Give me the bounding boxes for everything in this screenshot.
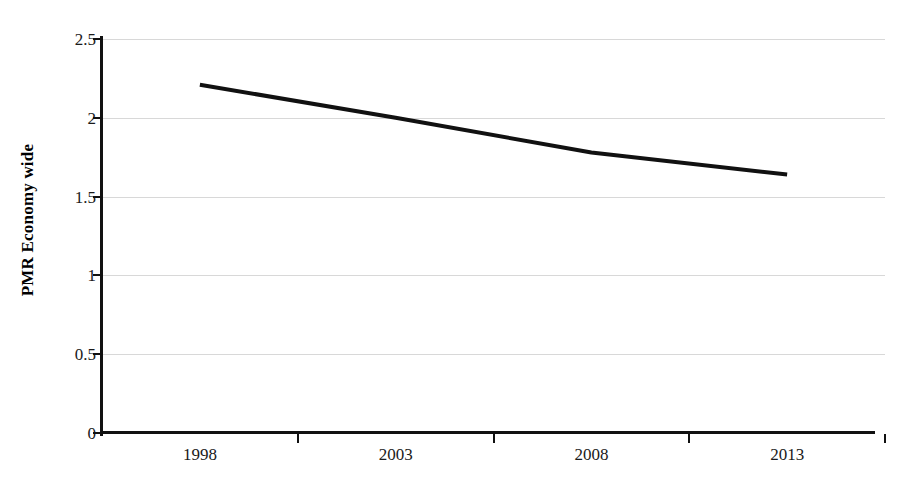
- y-axis-tick-mark: [93, 353, 101, 355]
- y-axis-tick-label: 0: [56, 425, 96, 442]
- y-axis-line: [100, 36, 103, 436]
- y-axis-tick-mark: [93, 432, 101, 434]
- x-axis-tick-label: 2008: [574, 445, 608, 465]
- x-axis-tick-mark: [688, 434, 690, 443]
- y-axis-tick-labels: 2.521.510.50: [52, 0, 96, 490]
- y-axis-tick-label: 0.5: [56, 346, 96, 363]
- gridline: [102, 275, 885, 276]
- x-axis-tick-label: 1998: [183, 445, 217, 465]
- plot-area: [102, 39, 885, 433]
- y-axis-title-text: PMR Economy wide: [18, 144, 38, 296]
- y-axis-tick-mark: [93, 274, 101, 276]
- y-axis-tick-label: 1.5: [56, 188, 96, 205]
- y-axis-tick-label: 2.5: [56, 31, 96, 48]
- y-axis-tick-mark: [93, 38, 101, 40]
- x-axis-line: [100, 431, 875, 434]
- gridline: [102, 39, 885, 40]
- x-axis-tick-mark: [884, 434, 886, 443]
- line-chart: PMR Economy wide 2.521.510.50 1998200320…: [0, 0, 906, 490]
- gridline: [102, 354, 885, 355]
- x-axis-tick-label: 2003: [379, 445, 413, 465]
- gridline: [102, 197, 885, 198]
- y-axis-title: PMR Economy wide: [0, 0, 56, 440]
- x-axis-tick-mark: [297, 434, 299, 443]
- y-axis-tick-mark: [93, 196, 101, 198]
- y-axis-tick-label: 1: [56, 267, 96, 284]
- y-axis-tick-label: 2: [56, 109, 96, 126]
- x-axis-tick-label: 2013: [770, 445, 804, 465]
- gridline: [102, 118, 885, 119]
- x-axis-tick-mark: [493, 434, 495, 443]
- y-axis-tick-mark: [93, 117, 101, 119]
